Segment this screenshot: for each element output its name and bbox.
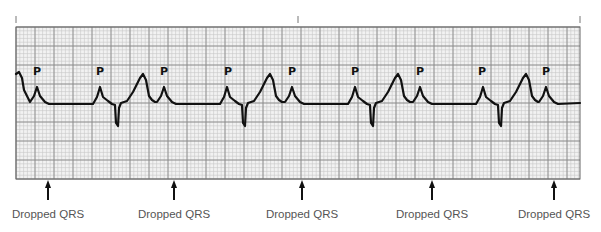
dropped-qrs-label: Dropped QRS bbox=[396, 208, 469, 220]
ecg-strip-graphic: PPPPPPPPPDropped QRSDropped QRSDropped Q… bbox=[0, 0, 601, 232]
p-wave-label: P bbox=[96, 65, 104, 78]
dropped-qrs-label: Dropped QRS bbox=[266, 208, 339, 220]
p-wave-label: P bbox=[288, 65, 296, 78]
arrow-head-icon bbox=[551, 180, 557, 188]
arrow-head-icon bbox=[45, 180, 51, 188]
arrow-head-icon bbox=[429, 180, 435, 188]
ecg-rhythm-strip: PPPPPPPPPDropped QRSDropped QRSDropped Q… bbox=[0, 0, 601, 232]
dropped-qrs-label: Dropped QRS bbox=[138, 208, 211, 220]
dropped-qrs-label: Dropped QRS bbox=[518, 208, 591, 220]
arrow-head-icon bbox=[299, 180, 305, 188]
p-wave-label: P bbox=[160, 65, 168, 78]
p-wave-label: P bbox=[478, 65, 486, 78]
p-wave-label: P bbox=[33, 65, 41, 78]
p-wave-label: P bbox=[542, 65, 550, 78]
p-wave-label: P bbox=[351, 65, 359, 78]
dropped-qrs-label: Dropped QRS bbox=[12, 208, 85, 220]
arrow-head-icon bbox=[171, 180, 177, 188]
p-wave-label: P bbox=[416, 65, 424, 78]
p-wave-label: P bbox=[224, 65, 232, 78]
